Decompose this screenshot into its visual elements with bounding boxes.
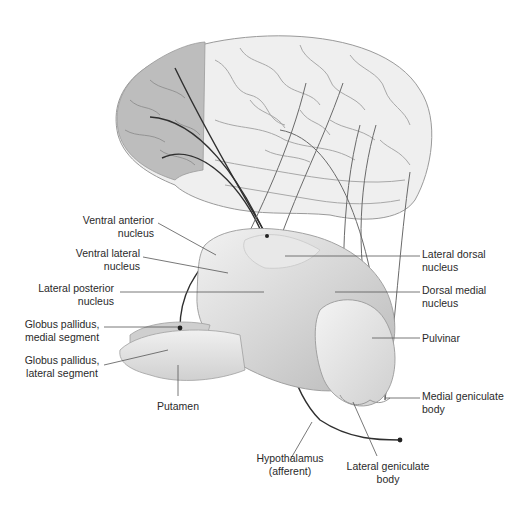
- label-text: (afferent): [250, 465, 330, 478]
- label-pulvinar: Pulvinar: [422, 332, 512, 345]
- label-text: body: [422, 403, 522, 416]
- thalamus: [197, 228, 395, 406]
- label-putamen: Putamen: [148, 400, 208, 413]
- label-text: medial segment: [20, 331, 104, 344]
- label-lateral-geniculate-body: Lateral geniculate body: [338, 460, 438, 485]
- label-text: Ventral lateral: [50, 247, 140, 260]
- label-lateral-dorsal-nucleus: Lateral dorsal nucleus: [422, 248, 512, 273]
- label-text: Putamen: [148, 400, 208, 413]
- label-hypothalamus-afferent: Hypothalamus (afferent): [250, 452, 330, 477]
- label-text: body: [338, 473, 438, 486]
- label-text: Medial geniculate: [422, 390, 522, 403]
- label-dorsal-medial-nucleus: Dorsal medial nucleus: [422, 284, 512, 309]
- label-text: nucleus: [422, 261, 512, 274]
- label-text: nucleus: [14, 295, 114, 308]
- label-text: lateral segment: [20, 367, 104, 380]
- label-text: Hypothalamus: [250, 452, 330, 465]
- label-text: nucleus: [64, 227, 154, 240]
- label-text: nucleus: [50, 260, 140, 273]
- label-text: nucleus: [422, 297, 512, 310]
- label-text: Dorsal medial: [422, 284, 512, 297]
- label-globus-pallidus-medial-segment: Globus pallidus, medial segment: [20, 318, 104, 343]
- label-text: Lateral posterior: [14, 282, 114, 295]
- label-ventral-lateral-nucleus: Ventral lateral nucleus: [50, 247, 140, 272]
- label-ventral-anterior-nucleus: Ventral anterior nucleus: [64, 214, 154, 239]
- label-text: Ventral anterior: [64, 214, 154, 227]
- label-globus-pallidus-lateral-segment: Globus pallidus, lateral segment: [20, 354, 104, 379]
- cerebral-cortex: [116, 36, 432, 219]
- label-text: Lateral dorsal: [422, 248, 512, 261]
- label-text: Globus pallidus,: [20, 354, 104, 367]
- label-text: Lateral geniculate: [338, 460, 438, 473]
- label-text: Globus pallidus,: [20, 318, 104, 331]
- label-lateral-posterior-nucleus: Lateral posterior nucleus: [14, 282, 114, 307]
- label-text: Pulvinar: [422, 332, 512, 345]
- label-medial-geniculate-body: Medial geniculate body: [422, 390, 522, 415]
